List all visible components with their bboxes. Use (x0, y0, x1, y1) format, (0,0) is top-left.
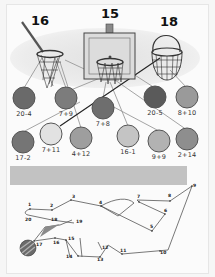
ball-expression: 4+12 (72, 150, 91, 158)
ball-expression: 16-1 (120, 148, 136, 156)
ball-expression: 2+14 (178, 151, 197, 159)
dot-number: 5 (150, 224, 153, 229)
ball-circle[interactable] (176, 128, 199, 151)
backboard-icon (84, 24, 135, 84)
ball-expression: 7+11 (42, 146, 61, 154)
dot-number: 2 (50, 203, 53, 208)
dot-number: 4 (99, 200, 102, 205)
dot-number: 15 (68, 236, 74, 241)
small-ball-icon (20, 240, 36, 256)
dot-number: 8 (168, 193, 171, 198)
dot-number: 3 (72, 194, 75, 199)
dot-number: 1 (28, 202, 31, 207)
ball-expression: 20-4 (16, 110, 32, 118)
dot-number: 10 (160, 250, 166, 255)
ball-expression: 7+8 (96, 120, 110, 128)
dot-number: 12 (102, 245, 108, 250)
ball-circle[interactable] (92, 97, 115, 120)
dot-number: 18 (51, 217, 57, 222)
dot-number: 19 (76, 219, 82, 224)
ball-circle[interactable] (55, 87, 78, 110)
hoop-label-net: 16 (31, 13, 49, 28)
dot-number: 9 (193, 183, 196, 188)
ball-expression: 9+9 (152, 153, 166, 161)
ball-expression: 7+9 (59, 110, 73, 118)
ball-circle[interactable] (117, 125, 140, 148)
dot-number: 20 (25, 217, 31, 222)
hoop-label-basket: 18 (160, 14, 178, 29)
dot-number: 14 (66, 254, 72, 259)
dot-number: 16 (53, 240, 59, 245)
dot-number: 7 (137, 194, 140, 199)
net-pole-icon (22, 22, 63, 88)
ball-expression: 8+10 (178, 109, 197, 117)
ball-expression: 20-5 (147, 109, 163, 117)
answer-band[interactable] (10, 166, 187, 185)
ball-circle[interactable] (144, 86, 167, 109)
ball-circle[interactable] (40, 123, 63, 146)
dot-number: 13 (97, 257, 103, 262)
ball-circle[interactable] (13, 87, 36, 110)
basket-icon (152, 36, 182, 81)
dot-number: 17 (36, 242, 42, 247)
dot-number: 11 (120, 248, 126, 253)
ball-circle[interactable] (12, 131, 35, 154)
ball-expression: 17-2 (15, 154, 31, 162)
ball-circle[interactable] (70, 127, 93, 150)
dot-number: 6 (164, 208, 167, 213)
hoop-label-backboard: 15 (101, 6, 119, 21)
ball-circle[interactable] (148, 130, 171, 153)
ball-circle[interactable] (176, 86, 199, 109)
